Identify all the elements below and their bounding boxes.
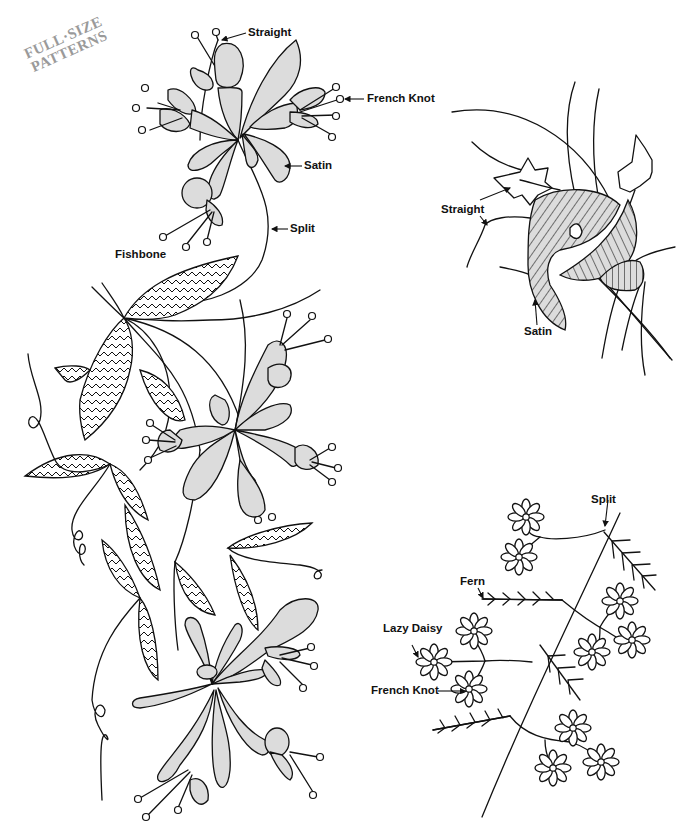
- label-straight-right: Straight: [441, 204, 484, 216]
- daisy-flower: [501, 539, 537, 575]
- daisy-flower: [583, 744, 619, 780]
- daisy-flower: [602, 583, 638, 619]
- daisy-flower: [614, 622, 650, 658]
- embroidery-pattern-sheet: [0, 0, 696, 837]
- label-french-knot-top: French Knot: [367, 93, 435, 105]
- daisy-flower: [574, 634, 610, 670]
- label-split-bottom-right: Split: [591, 494, 616, 506]
- fishbone-leaf-vine: [25, 256, 322, 800]
- label-fern: Fern: [460, 576, 485, 588]
- bottom-flower: [133, 599, 324, 821]
- ivy-satin-motif: [452, 82, 675, 375]
- daisy-flower: [535, 750, 571, 786]
- daisy-flower: [555, 710, 591, 746]
- label-lazy-daisy: Lazy Daisy: [383, 623, 442, 635]
- daisy-flower: [508, 499, 544, 535]
- label-satin-right: Satin: [524, 326, 552, 338]
- label-straight-top: Straight: [248, 27, 291, 39]
- label-fishbone: Fishbone: [115, 249, 166, 261]
- label-satin-top: Satin: [304, 160, 332, 172]
- daisy-flower: [416, 644, 452, 680]
- daisy-flower: [451, 671, 487, 707]
- daisy-fern-branch: [412, 499, 656, 817]
- label-split-top: Split: [290, 223, 315, 235]
- daisy-flower: [456, 613, 492, 649]
- label-french-knot-bottom-right: French Knot: [371, 685, 439, 697]
